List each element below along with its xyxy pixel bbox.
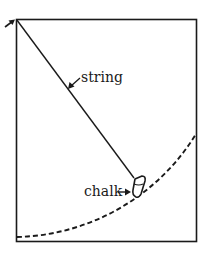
string-label: string [81, 69, 123, 85]
string-line [17, 20, 135, 179]
string-arrow-icon [68, 78, 80, 89]
chalk-string-arc-diagram [0, 0, 207, 256]
pivot-arrow-icon [5, 20, 15, 28]
chalk-label: chalk [84, 183, 122, 199]
board-rectangle [17, 20, 197, 242]
chalk-icon [133, 176, 145, 197]
